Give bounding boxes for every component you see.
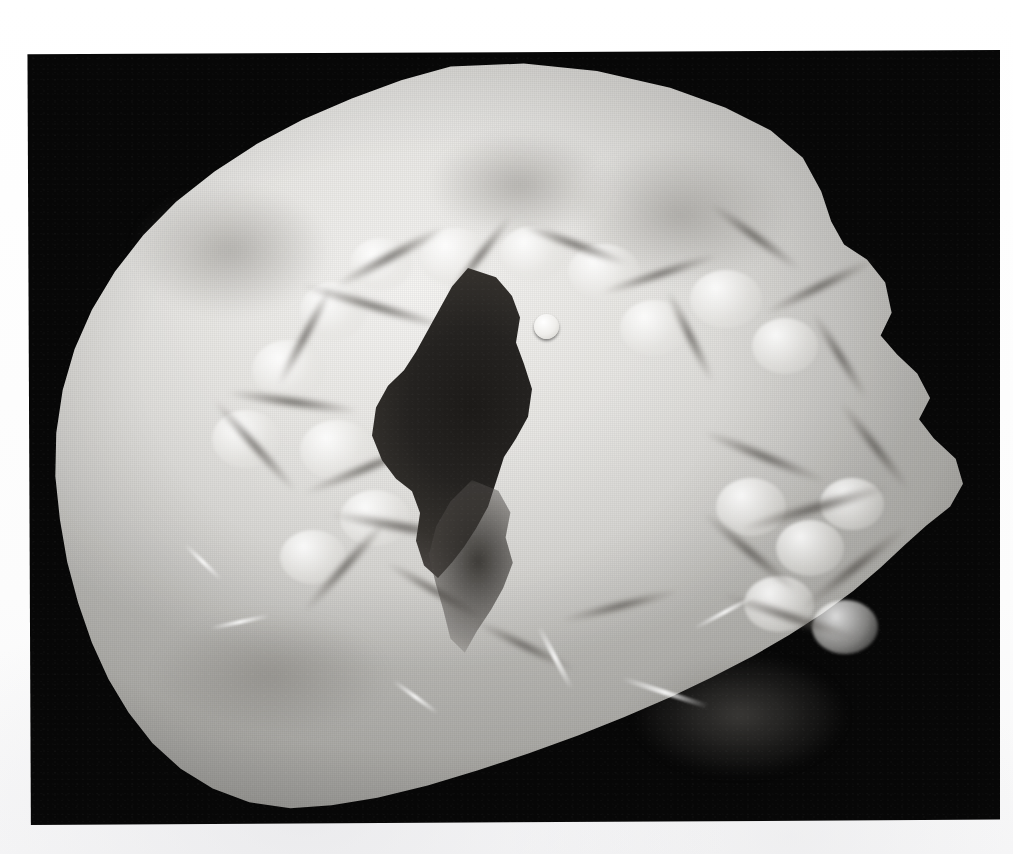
page-root [0,0,1013,854]
papillary-muscle-nodule [534,314,559,339]
photograph-plate [26,50,1000,825]
